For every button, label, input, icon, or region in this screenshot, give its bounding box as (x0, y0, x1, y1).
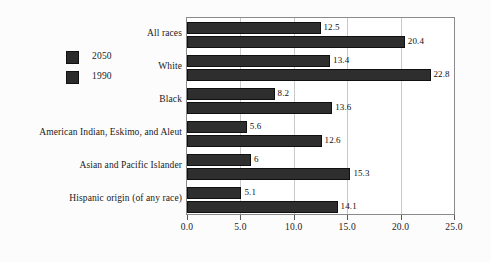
bar (187, 36, 405, 48)
bar-value-label: 12.5 (324, 23, 340, 32)
x-axis-tick-label: 0.0 (181, 222, 193, 232)
bar-value-label: 5.6 (250, 122, 262, 131)
bar-value-label: 8.2 (278, 89, 290, 98)
bar-series-container: 12.520.413.422.88.213.65.612.6615.35.114… (187, 18, 454, 214)
bar (187, 187, 241, 199)
bar (187, 154, 251, 166)
bar-value-label: 20.4 (408, 37, 424, 46)
x-axis-tick (187, 215, 188, 220)
bar-value-label: 14.1 (341, 202, 357, 211)
plot-area: 12.520.413.422.88.213.65.612.6615.35.114… (186, 17, 455, 215)
x-axis-tick-label: 15.0 (338, 222, 355, 232)
bar (187, 22, 321, 34)
bar-chart: 2050 1990 All racesWhiteBlackAmerican In… (0, 0, 491, 262)
bar-value-label: 6 (254, 155, 259, 164)
category-label: American Indian, Eskimo, and Aleut (0, 127, 182, 138)
bar-value-label: 13.6 (335, 103, 351, 112)
x-axis-tick-label: 20.0 (392, 222, 409, 232)
bar (187, 121, 247, 133)
x-axis: 0.05.010.015.020.025.0 (186, 215, 455, 245)
x-axis-tick (401, 215, 402, 220)
x-axis-tick-label: 5.0 (234, 222, 246, 232)
x-axis-tick-label: 25.0 (445, 222, 462, 232)
category-label: White (0, 61, 182, 72)
category-label: Black (0, 94, 182, 105)
bar (187, 135, 322, 147)
bar-value-label: 12.6 (325, 136, 341, 145)
x-axis-tick-label: 10.0 (285, 222, 302, 232)
x-axis-tick (294, 215, 295, 220)
bar (187, 201, 338, 213)
category-label: All races (0, 28, 182, 39)
bar (187, 88, 275, 100)
bar (187, 69, 431, 81)
x-axis-tick (454, 215, 455, 220)
bar-value-label: 13.4 (333, 56, 349, 65)
bar-value-label: 22.8 (434, 70, 450, 79)
category-label: Asian and Pacific Islander (0, 160, 182, 171)
bar (187, 102, 332, 114)
category-label: Hispanic origin (of any race) (0, 193, 182, 204)
x-axis-tick (347, 215, 348, 220)
bar (187, 168, 350, 180)
bar-value-label: 15.3 (353, 169, 369, 178)
bar-value-label: 5.1 (244, 188, 256, 197)
category-axis-labels: All racesWhiteBlackAmerican Indian, Eski… (0, 17, 182, 215)
x-axis-tick (240, 215, 241, 220)
bar (187, 55, 330, 67)
